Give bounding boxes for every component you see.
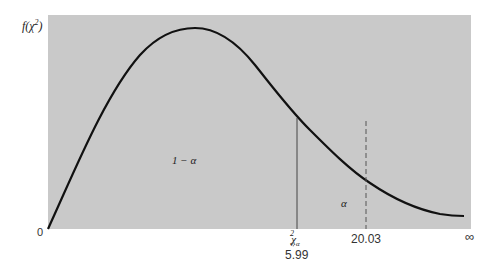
y-axis-label: f(χ2) (22, 18, 43, 33)
critical-value-symbol: χ2v, α (290, 229, 300, 248)
infinity-label: ∞ (465, 229, 474, 244)
chi-square-chart: f(χ2) 0 1 − α α χ2v, α 5.99 20.03 ∞ (0, 0, 494, 270)
rejection-region-label: α (341, 197, 347, 209)
critical-value-number: 5.99 (285, 248, 309, 262)
plot-area (48, 15, 471, 229)
observed-value-label: 20.03 (351, 232, 381, 246)
origin-label: 0 (37, 226, 43, 238)
acceptance-region-label: 1 − α (172, 154, 196, 166)
